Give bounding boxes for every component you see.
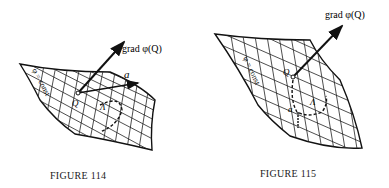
figure-114-caption: FIGURE 114 — [50, 170, 106, 181]
grad-label: grad φ(Q) — [325, 9, 365, 21]
lambda-label: Λ — [309, 97, 316, 107]
surface-label: φ = const — [30, 67, 52, 98]
point-q — [76, 91, 80, 95]
figure-114: grad φ(Q) a Q Λ φ = const — [20, 42, 170, 164]
figures-canvas: grad φ(Q) a Q Λ φ = const grad φ(Q) Q Λ … — [0, 0, 389, 188]
q-label: Q — [72, 98, 79, 108]
surface-grid — [210, 20, 370, 158]
grad-vector — [78, 42, 124, 93]
q-label: Q — [283, 67, 290, 77]
lambda-label: Λ — [99, 102, 106, 112]
grad-vector — [293, 26, 342, 77]
a-label: a — [124, 68, 130, 80]
figure-115-caption: FIGURE 115 — [260, 168, 316, 179]
a-label: a — [288, 104, 293, 114]
grad-label: grad φ(Q) — [122, 43, 162, 55]
figure-115: grad φ(Q) Q Λ a φ = const — [210, 9, 370, 158]
point-q — [291, 75, 295, 79]
